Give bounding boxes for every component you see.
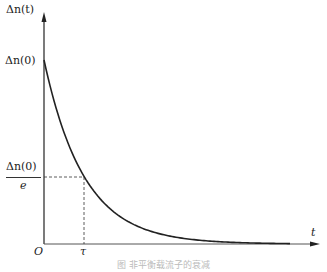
y-fraction-denominator: e bbox=[20, 179, 27, 192]
y-axis-label: Δn(t) bbox=[6, 3, 34, 16]
x-axis-label: t bbox=[311, 226, 315, 239]
y-axis-arrow-icon bbox=[42, 12, 47, 22]
fraction-bar bbox=[6, 177, 41, 178]
x-axis-arrow-icon bbox=[310, 242, 320, 247]
y-initial-label: Δn(0) bbox=[5, 54, 36, 67]
figure-caption: 图 非平衡载流子的衰减 bbox=[0, 258, 327, 271]
decay-diagram bbox=[0, 0, 327, 272]
origin-label: O bbox=[34, 245, 43, 258]
tau-label: τ bbox=[80, 245, 86, 258]
decay-curve bbox=[44, 60, 290, 244]
y-fraction-numerator: Δn(0) bbox=[6, 160, 37, 173]
